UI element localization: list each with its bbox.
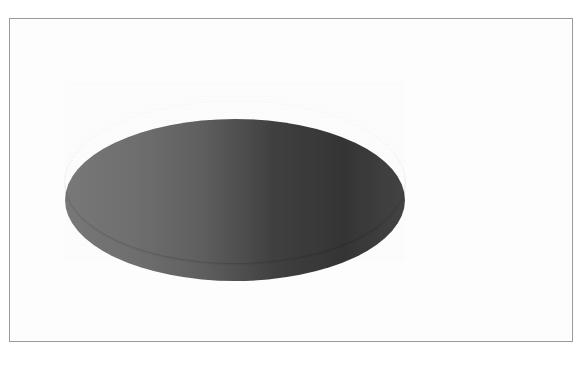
legend-item-car (465, 231, 575, 256)
pie-chart (65, 81, 405, 286)
legend-item-bus (465, 181, 575, 206)
legend-swatch-bus (465, 190, 473, 198)
legend-swatch-car (465, 240, 473, 248)
legend-item-walk (465, 256, 575, 281)
pie-graphic (65, 81, 405, 261)
page-body-text (6, 0, 426, 6)
chart-frame (9, 18, 573, 342)
legend-swatch-walk (465, 265, 473, 273)
chart-legend (465, 181, 575, 281)
legend-item-bike (465, 206, 575, 231)
pie-top-face (65, 101, 405, 263)
legend-swatch-bike (465, 215, 473, 223)
